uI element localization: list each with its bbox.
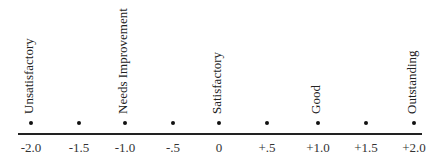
category-label: Outstanding [404, 50, 420, 114]
scale-point-dot [77, 121, 81, 125]
category-label: Satisfactory [209, 52, 225, 114]
axis-line [18, 133, 422, 135]
tick-label: +2.0 [402, 140, 426, 156]
scale-point-dot [217, 121, 221, 125]
scale-point-dot [412, 121, 416, 125]
tick-label: -1.0 [115, 140, 136, 156]
tick-label: +1.0 [306, 140, 330, 156]
category-label: Needs Improvement [115, 8, 131, 114]
tick-label: 0 [216, 140, 223, 156]
tick-label: -1.5 [69, 140, 90, 156]
scale-point-dot [171, 121, 175, 125]
category-label: Good [308, 85, 324, 114]
scale-point-dot [29, 121, 33, 125]
scale-point-dot [123, 121, 127, 125]
tick-label: +1.5 [354, 140, 378, 156]
scale-point-dot [364, 121, 368, 125]
category-label: Unsatisfactory [21, 38, 37, 114]
tick-label: -2.0 [21, 140, 42, 156]
tick-label: -.5 [166, 140, 180, 156]
scale-point-dot [265, 121, 269, 125]
scale-point-dot [316, 121, 320, 125]
tick-label: +.5 [258, 140, 275, 156]
